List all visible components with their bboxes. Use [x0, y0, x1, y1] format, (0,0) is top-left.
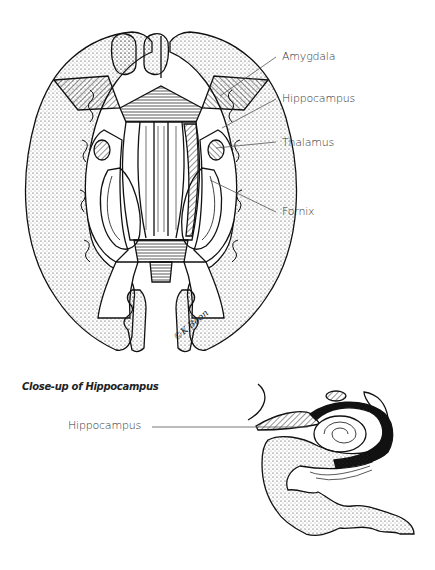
hippocampus-closeup	[248, 384, 414, 535]
caption-closeup: Close-up of Hippocampus	[22, 381, 158, 392]
label-amygdala: Amygdala	[282, 50, 335, 63]
axial-brain-diagram	[25, 32, 296, 352]
brain-illustration	[0, 0, 435, 570]
label-hippocampus-closeup: Hippocampus	[68, 419, 141, 432]
label-hippocampus: Hippocampus	[282, 92, 355, 105]
label-fornix: Fornix	[282, 205, 314, 218]
label-thalamus: Thalamus	[282, 136, 334, 149]
